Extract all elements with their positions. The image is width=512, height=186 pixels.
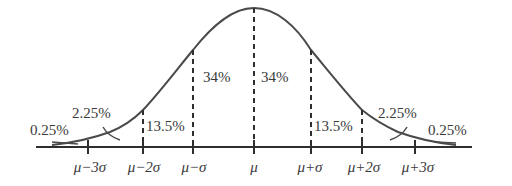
normal-distribution-diagram: 34% 34% 13.5% 13.5% 2.25% 2.25% 0.25% 0.… — [0, 0, 512, 186]
axis-label-mu-plus-sigma: μ+σ — [296, 159, 323, 175]
label-2-25-right: 2.25% — [378, 105, 417, 121]
label-13-5-left: 13.5% — [146, 118, 185, 134]
label-0-25-left: 0.25% — [30, 122, 69, 138]
label-2-25-left: 2.25% — [72, 105, 111, 121]
label-0-25-right: 0.25% — [428, 122, 467, 138]
label-34-right: 34% — [261, 69, 289, 85]
axis-label-mu-minus-3sigma: μ−3σ — [73, 159, 107, 175]
axis-label-mu-plus-2sigma: μ+2σ — [347, 159, 381, 175]
label-13-5-right: 13.5% — [314, 118, 353, 134]
label-34-left: 34% — [203, 69, 231, 85]
axis-label-mu: μ — [249, 159, 258, 175]
axis-label-mu-plus-3sigma: μ+3σ — [401, 159, 435, 175]
axis-label-mu-minus-2sigma: μ−2σ — [127, 159, 161, 175]
axis-label-mu-minus-sigma: μ−σ — [180, 159, 207, 175]
